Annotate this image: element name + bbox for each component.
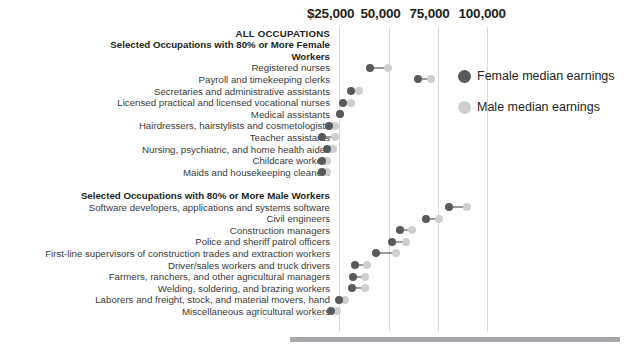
legend-label: Female median earnings	[477, 69, 615, 83]
male-earnings-dot	[347, 99, 355, 107]
occupation-row-label: Laborers and freight, stock, and materia…	[0, 294, 330, 305]
section-header-label: Workers	[0, 51, 330, 62]
male-earnings-dot	[363, 261, 371, 269]
female-earnings-dot	[414, 75, 422, 83]
female-earnings-dot	[318, 157, 326, 165]
male-legend-swatch-icon	[458, 101, 471, 114]
male-earnings-dot	[361, 284, 369, 292]
gridline	[438, 27, 439, 332]
occupation-row-label: Teacher assistants	[0, 132, 330, 143]
male-earnings-dot	[427, 75, 435, 83]
female-earnings-dot	[349, 273, 357, 281]
occupation-row-label: Registered nurses	[0, 62, 330, 73]
female-earnings-dot	[372, 249, 380, 257]
occupation-row-label: Hairdressers, hairstylists and cosmetolo…	[0, 120, 330, 131]
occupation-row-label: First-line supervisors of construction t…	[0, 248, 330, 259]
occupation-row-label: Farmers, ranchers, and other agricultura…	[0, 271, 330, 282]
axis-tick-label: $25,000	[307, 6, 354, 21]
dumbbell-chart: $25,00050,00075,000100,000ALL OCCUPATION…	[0, 0, 626, 350]
female-earnings-dot	[325, 122, 333, 130]
legend-label: Male median earnings	[477, 100, 600, 114]
male-earnings-dot	[392, 249, 400, 257]
occupation-row-label: Medical assistants	[0, 109, 330, 120]
axis-tick-label: 100,000	[459, 6, 506, 21]
female-legend-swatch-icon	[458, 70, 471, 83]
female-earnings-dot	[339, 99, 347, 107]
occupation-row-label: Welding, soldering, and brazing workers	[0, 283, 330, 294]
male-earnings-dot	[331, 133, 339, 141]
female-earnings-dot	[366, 64, 374, 72]
male-earnings-dot	[408, 226, 416, 234]
occupation-row-label: Software developers, applications and sy…	[0, 202, 330, 213]
female-earnings-dot	[336, 110, 344, 118]
occupation-row-label: Police and sheriff patrol officers	[0, 236, 330, 247]
axis-tick-label: 75,000	[410, 6, 450, 21]
male-earnings-dot	[435, 215, 443, 223]
gridline	[339, 27, 340, 332]
female-earnings-dot	[347, 87, 355, 95]
occupation-row-label: Childcare workers	[0, 155, 330, 166]
female-earnings-dot	[422, 215, 430, 223]
female-earnings-dot	[445, 203, 453, 211]
section-header-label: Selected Occupations with 80% or More Ma…	[0, 190, 330, 201]
occupation-row-label: Construction managers	[0, 225, 330, 236]
male-earnings-dot	[361, 273, 369, 281]
gridline	[389, 27, 390, 332]
axis-tick-label: 50,000	[361, 6, 401, 21]
occupation-row-label: Driver/sales workers and truck drivers	[0, 260, 330, 271]
section-header-label: ALL OCCUPATIONS	[0, 28, 330, 39]
male-earnings-dot	[402, 238, 410, 246]
occupation-row-label: Secretaries and administrative assistant…	[0, 86, 330, 97]
female-earnings-dot	[351, 261, 359, 269]
male-earnings-dot	[463, 203, 471, 211]
section-header-label: Selected Occupations with 80% or More Fe…	[0, 39, 330, 50]
occupation-row-label: Miscellaneous agricultural workers	[0, 306, 330, 317]
occupation-row-label: Civil engineers	[0, 213, 330, 224]
bottom-rule	[290, 337, 620, 342]
occupation-row-label: Maids and housekeeping cleaners	[0, 167, 330, 178]
occupation-row-label: Payroll and timekeeping clerks	[0, 74, 330, 85]
male-earnings-dot	[355, 87, 363, 95]
occupation-row-label: Licensed practical and licensed vocation…	[0, 97, 330, 108]
male-earnings-dot	[384, 64, 392, 72]
female-earnings-dot	[335, 296, 343, 304]
female-earnings-dot	[396, 226, 404, 234]
female-earnings-dot	[388, 238, 396, 246]
female-earnings-dot	[348, 284, 356, 292]
occupation-row-label: Nursing, psychiatric, and home health ai…	[0, 144, 330, 155]
